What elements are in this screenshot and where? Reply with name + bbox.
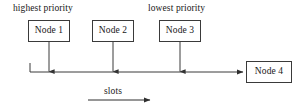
- bus-line: [30, 63, 243, 72]
- slots-axis-label: slots: [104, 86, 122, 96]
- highest-priority-label: highest priority: [13, 3, 73, 14]
- lowest-priority-label: lowest priority: [148, 3, 205, 14]
- node-4-box[interactable]: Node 4: [246, 61, 292, 83]
- node-1-label: Node 1: [35, 26, 63, 36]
- node-3-box[interactable]: Node 3: [159, 20, 201, 42]
- node-stem-group: [49, 42, 180, 72]
- node-3-label: Node 3: [166, 26, 194, 36]
- node-4-label: Node 4: [255, 67, 283, 77]
- slots-priority-diagram: highest priority lowest priority Node 1 …: [0, 0, 296, 108]
- node-2-label: Node 2: [99, 26, 127, 36]
- node-1-box[interactable]: Node 1: [28, 20, 70, 42]
- diagram-canvas: [0, 0, 296, 108]
- node-2-box[interactable]: Node 2: [92, 20, 134, 42]
